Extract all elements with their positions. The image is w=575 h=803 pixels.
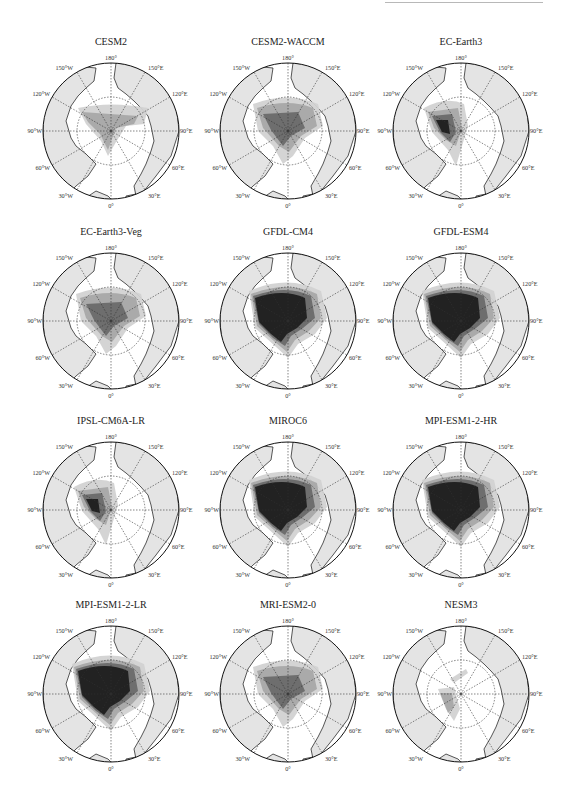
polar-map: 180° 0° 90°W 90°E 150°W 120°W 150°E 120°…: [193, 236, 383, 416]
lon-label-30w: 30°W: [408, 192, 423, 199]
lon-label-90w: 90°W: [377, 317, 392, 324]
lon-label-30e: 30°E: [498, 571, 511, 578]
lon-label-60e: 60°E: [522, 727, 535, 734]
lon-label-150w: 150°W: [232, 254, 250, 261]
map-panel-miroc6: MIROC6: [193, 415, 383, 605]
lon-label-60e: 60°E: [172, 354, 185, 361]
lon-label-0: 0°: [458, 581, 464, 588]
lon-label-60e: 60°E: [172, 727, 185, 734]
lon-label-30w: 30°W: [408, 755, 423, 762]
lon-label-120e: 120°E: [172, 653, 188, 660]
lon-label-90w: 90°W: [204, 690, 219, 697]
map-panel-ipsl-cm6a-lr: IPSL-CM6A-LR: [16, 415, 206, 605]
lon-label-180: 180°: [105, 433, 117, 440]
lon-label-60e: 60°E: [349, 727, 362, 734]
lon-label-150w: 150°W: [405, 64, 423, 71]
lon-label-150w: 150°W: [405, 254, 423, 261]
lon-label-30w: 30°W: [235, 571, 250, 578]
lon-label-180: 180°: [455, 244, 467, 251]
lon-label-120w: 120°W: [32, 280, 50, 287]
lon-label-90e: 90°E: [180, 317, 193, 324]
lon-label-90e: 90°E: [180, 506, 193, 513]
lon-label-150w: 150°W: [55, 64, 73, 71]
lon-label-60e: 60°E: [522, 164, 535, 171]
lon-label-60w: 60°W: [385, 164, 400, 171]
lon-label-60w: 60°W: [385, 727, 400, 734]
lon-label-150e: 150°E: [325, 627, 341, 634]
lon-label-30e: 30°E: [325, 382, 338, 389]
lon-label-120e: 120°E: [522, 90, 538, 97]
polar-map: 180° 0° 90°W 90°E 150°W 120°W 150°E 120°…: [16, 425, 206, 605]
polar-map: 180° 0° 90°W 90°E 150°W 120°W 150°E 120°…: [193, 425, 383, 605]
lon-label-30w: 30°W: [58, 571, 73, 578]
lon-label-90w: 90°W: [27, 127, 42, 134]
polar-map: 180° 0° 90°W 90°E 150°W 120°W 150°E 120°…: [366, 609, 556, 789]
map-panel-mpi-esm1-2-hr: MPI-ESM1-2-HR: [366, 415, 556, 605]
polar-map: 180° 0° 90°W 90°E 150°W 120°W 150°E 120°…: [16, 236, 206, 416]
lon-label-150e: 150°E: [325, 443, 341, 450]
map-panel-gfdl-esm4: GFDL-ESM4: [366, 226, 556, 416]
lon-label-150w: 150°W: [232, 64, 250, 71]
lon-label-120w: 120°W: [382, 90, 400, 97]
lon-label-150e: 150°E: [498, 254, 514, 261]
lon-label-60w: 60°W: [35, 354, 50, 361]
lon-label-150e: 150°E: [148, 443, 164, 450]
lon-label-0: 0°: [285, 765, 291, 772]
lon-label-120w: 120°W: [382, 280, 400, 287]
lon-label-180: 180°: [105, 54, 117, 61]
lon-label-60e: 60°E: [349, 354, 362, 361]
lon-label-60w: 60°W: [385, 543, 400, 550]
lon-label-90w: 90°W: [27, 317, 42, 324]
lon-label-0: 0°: [458, 392, 464, 399]
lon-label-180: 180°: [282, 244, 294, 251]
lon-label-30w: 30°W: [408, 382, 423, 389]
lon-label-150w: 150°W: [55, 443, 73, 450]
lon-label-180: 180°: [455, 617, 467, 624]
lon-label-90w: 90°W: [377, 690, 392, 697]
lon-label-30w: 30°W: [58, 382, 73, 389]
lon-label-30e: 30°E: [325, 755, 338, 762]
lon-label-120e: 120°E: [349, 280, 365, 287]
lon-label-30w: 30°W: [58, 755, 73, 762]
lon-label-90e: 90°E: [530, 317, 543, 324]
lon-label-60e: 60°E: [349, 543, 362, 550]
lon-label-120w: 120°W: [32, 90, 50, 97]
lon-label-150w: 150°W: [405, 443, 423, 450]
map-panel-cesm2-waccm: CESM2-WACCM: [193, 36, 383, 226]
lon-label-60e: 60°E: [172, 543, 185, 550]
lon-label-120w: 120°W: [32, 653, 50, 660]
lon-label-60w: 60°W: [212, 354, 227, 361]
lon-label-120e: 120°E: [522, 653, 538, 660]
lon-label-90e: 90°E: [180, 690, 193, 697]
map-panel-ec-earth3: EC-Earth3: [366, 36, 556, 226]
lon-label-180: 180°: [455, 54, 467, 61]
lon-label-120w: 120°W: [32, 469, 50, 476]
lon-label-120e: 120°E: [349, 90, 365, 97]
polar-map: 180° 0° 90°W 90°E 150°W 120°W 150°E 120°…: [366, 425, 556, 605]
lon-label-60e: 60°E: [172, 164, 185, 171]
lon-label-90w: 90°W: [377, 506, 392, 513]
lon-label-0: 0°: [285, 202, 291, 209]
map-panel-nesm3: NESM3: [366, 599, 556, 789]
lon-label-90w: 90°W: [377, 127, 392, 134]
lon-label-90w: 90°W: [204, 506, 219, 513]
lon-label-30w: 30°W: [235, 382, 250, 389]
lon-label-150e: 150°E: [498, 64, 514, 71]
lon-label-90e: 90°E: [180, 127, 193, 134]
map-panel-gfdl-cm4: GFDL-CM4: [193, 226, 383, 416]
lon-label-30e: 30°E: [325, 192, 338, 199]
lon-label-180: 180°: [282, 433, 294, 440]
lon-label-150e: 150°E: [148, 254, 164, 261]
lon-label-120e: 120°E: [522, 280, 538, 287]
map-panel-mri-esm2-0: MRI-ESM2-0: [193, 599, 383, 789]
lon-label-90w: 90°W: [27, 506, 42, 513]
lon-label-120e: 120°E: [522, 469, 538, 476]
lon-label-0: 0°: [108, 202, 114, 209]
lon-label-30w: 30°W: [235, 192, 250, 199]
lon-label-30e: 30°E: [498, 382, 511, 389]
lon-label-60e: 60°E: [349, 164, 362, 171]
polar-map: 180° 0° 90°W 90°E 150°W 120°W 150°E 120°…: [16, 46, 206, 226]
lon-label-90w: 90°W: [204, 127, 219, 134]
lon-label-60e: 60°E: [522, 354, 535, 361]
lon-label-90w: 90°W: [27, 690, 42, 697]
